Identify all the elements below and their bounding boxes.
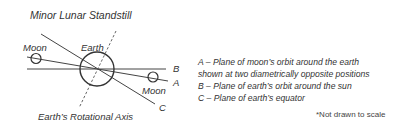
moon-right-circle bbox=[148, 72, 158, 82]
line-c-label: C bbox=[159, 102, 166, 113]
line-b-label: B bbox=[173, 63, 180, 74]
earth-label: Earth bbox=[81, 42, 104, 53]
scale-note: *Not drawn to scale bbox=[316, 110, 385, 119]
moon-left-label: Moon bbox=[23, 42, 47, 53]
moon-right-label: Moon bbox=[142, 85, 166, 96]
axis-label: Earth’s Rotational Axis bbox=[38, 111, 133, 122]
line-a-label: A bbox=[172, 77, 179, 88]
legend-line-c: C – Plane of earth’s equator bbox=[198, 91, 305, 105]
